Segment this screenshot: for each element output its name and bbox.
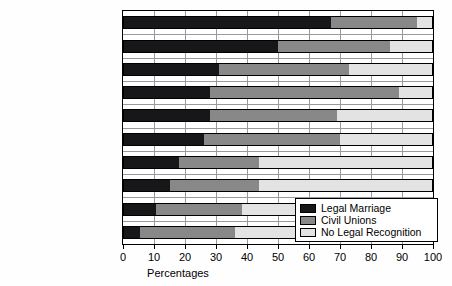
row-separator: [123, 151, 433, 152]
bar-segment: [210, 109, 337, 122]
bar-segment: [123, 109, 210, 122]
legend-label-no-legal-recognition: No Legal Recognition: [321, 226, 421, 238]
x-tick-50: [278, 245, 279, 249]
x-tick-80: [371, 245, 372, 249]
stacked-bar-chart: JewishSecularsMainline ProtestantsMuslim…: [0, 0, 452, 286]
x-tick-60: [309, 245, 310, 249]
bar-segment: [123, 63, 219, 76]
bar-segment: [123, 226, 140, 239]
bar-segment: [123, 86, 210, 99]
bar-segment: [123, 40, 278, 53]
bar-segment: [123, 203, 156, 216]
bar-segment: [278, 40, 390, 53]
bar-segment: [399, 86, 433, 99]
bar-row: [123, 63, 433, 76]
bar-segment: [123, 156, 179, 169]
bar-segment: [259, 179, 433, 192]
legend-swatch-civil-unions: [300, 216, 316, 225]
chart-legend: Legal Marriage Civil Unions No Legal Rec…: [295, 198, 438, 242]
bar-row: [123, 109, 433, 122]
legend-label-civil-unions: Civil Unions: [321, 214, 376, 226]
row-separator: [123, 104, 433, 105]
bar-row: [123, 156, 433, 169]
bar-segment: [349, 63, 433, 76]
x-tick-label-100: 100: [413, 251, 452, 263]
x-tick-10: [154, 245, 155, 249]
x-tick-100: [433, 245, 434, 249]
bar-segment: [210, 86, 399, 99]
bar-segment: [331, 16, 418, 29]
bar-segment: [219, 63, 349, 76]
bar-row: [123, 40, 433, 53]
row-separator: [123, 34, 433, 35]
row-separator: [123, 128, 433, 129]
bar-segment: [340, 133, 433, 146]
legend-swatch-legal-marriage: [300, 204, 316, 213]
bar-segment: [140, 226, 235, 239]
x-tick-90: [402, 245, 403, 249]
row-separator: [123, 81, 433, 82]
legend-swatch-no-legal-recognition: [300, 228, 316, 237]
bar-row: [123, 133, 433, 146]
bar-segment: [179, 156, 260, 169]
x-tick-40: [247, 245, 248, 249]
x-axis-title: Percentages: [22, 267, 334, 279]
bar-row: [123, 86, 433, 99]
row-separator: [123, 174, 433, 175]
bar-segment: [417, 16, 433, 29]
bar-segment: [123, 16, 331, 29]
legend-item-no-legal-recognition: No Legal Recognition: [300, 226, 433, 238]
legend-label-legal-marriage: Legal Marriage: [321, 202, 391, 214]
legend-item-legal-marriage: Legal Marriage: [300, 202, 433, 214]
bar-segment: [337, 109, 433, 122]
bar-segment: [390, 40, 433, 53]
bar-row: [123, 16, 433, 29]
bar-segment: [123, 179, 170, 192]
bar-segment: [170, 179, 260, 192]
x-tick-20: [185, 245, 186, 249]
bar-segment: [156, 203, 243, 216]
row-separator: [123, 58, 433, 59]
x-tick-30: [216, 245, 217, 249]
bar-segment: [123, 133, 204, 146]
bar-segment: [204, 133, 340, 146]
x-tick-0: [123, 245, 124, 249]
legend-item-civil-unions: Civil Unions: [300, 214, 433, 226]
bar-segment: [259, 156, 433, 169]
x-tick-70: [340, 245, 341, 249]
bar-row: [123, 179, 433, 192]
